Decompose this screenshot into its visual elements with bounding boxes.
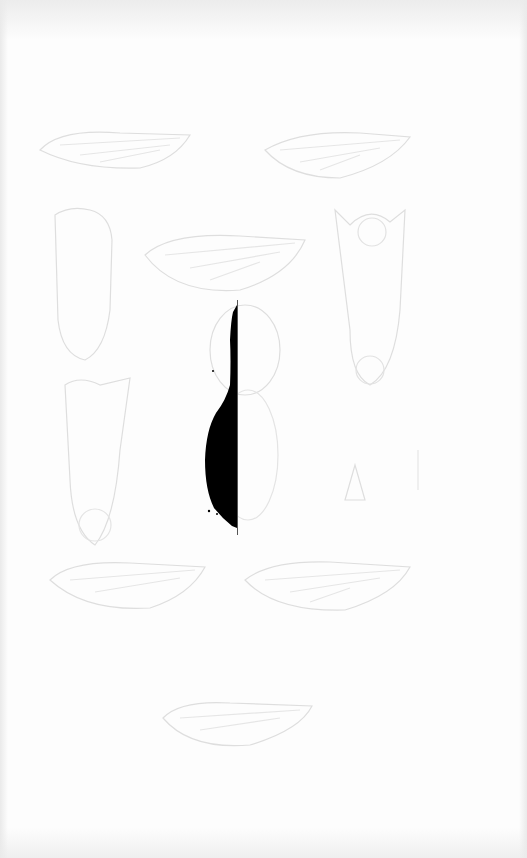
- body-right: [335, 210, 405, 385]
- wing-top-left: [40, 132, 190, 168]
- black-silhouette: [205, 305, 237, 528]
- body-left: [55, 208, 112, 360]
- scanned-plate: [0, 0, 527, 858]
- body-lower-right: [345, 465, 365, 500]
- wing-lower-left: [50, 563, 205, 609]
- wing-center: [145, 235, 305, 290]
- body-lower-left: [65, 378, 130, 545]
- plate-drawings: [0, 0, 527, 858]
- head-center: [210, 305, 280, 395]
